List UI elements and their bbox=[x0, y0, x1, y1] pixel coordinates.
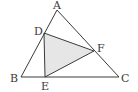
triangle-diagram: A B C D E F bbox=[0, 0, 138, 92]
label-b: B bbox=[10, 72, 18, 85]
label-a: A bbox=[52, 0, 62, 12]
label-d: D bbox=[34, 25, 43, 38]
label-e: E bbox=[41, 80, 49, 92]
label-c: C bbox=[121, 72, 129, 85]
shaded-triangle-def bbox=[44, 33, 94, 77]
label-f: F bbox=[97, 42, 105, 55]
